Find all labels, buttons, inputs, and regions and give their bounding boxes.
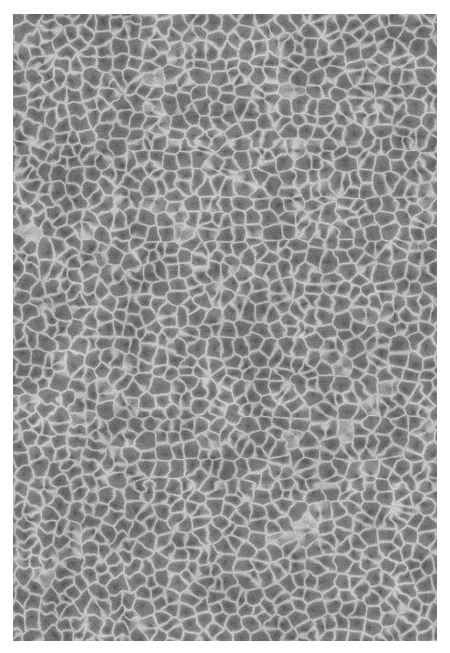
micrograph-plate xyxy=(13,14,437,641)
micrograph-texture xyxy=(13,14,437,641)
page-canvas xyxy=(0,0,450,653)
